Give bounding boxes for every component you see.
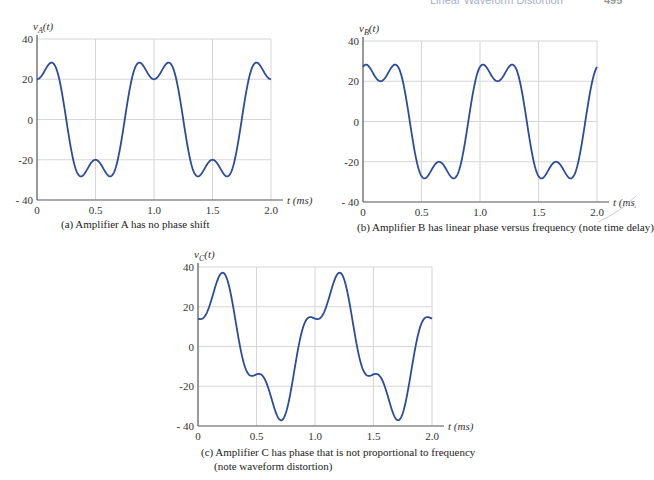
y-tick-label: 20 [183,301,195,313]
x-tick-label: 2.0 [590,206,604,218]
xlabel-a: t (ms) [287,194,313,207]
x-tick-label: 0.5 [415,206,429,218]
y-tick-label: - 40 [177,420,195,432]
ylabel-tail: (t) [43,20,54,33]
caption-c: (c) Amplifier C has phase that is not pr… [201,446,475,458]
y-tick-label: 0 [354,116,360,128]
panel-c: 00.51.01.52.040200-20- 40 vC(t) t (ms) [177,248,474,442]
x-tick-label: 1.5 [532,206,546,218]
x-tick-label: 2.0 [425,430,439,442]
ylabel-tail: (t) [369,22,380,35]
xlabel-b: t (ms) [613,196,636,209]
ticks-c: 00.51.01.52.040200-20- 40 [177,261,440,442]
panel-b: 00.51.01.52.040200-20- 40 vB(t) t (ms) [342,22,636,218]
x-tick-label: 2.0 [264,204,278,216]
x-tick-label: 1.0 [147,204,161,216]
y-tick-label: - 40 [16,194,34,206]
y-tick-label: - 40 [342,196,360,208]
y-tick-label: 20 [348,75,360,87]
y-tick-label: 40 [22,33,34,45]
x-tick-label: 0 [34,204,40,216]
x-tick-label: 0 [195,430,201,442]
grid-c [198,267,432,426]
x-tick-label: 1.0 [308,430,322,442]
ylabel-tail: (t) [204,248,215,261]
caption-a: (a) Amplifier A has no phase shift [61,218,209,230]
x-tick-label: 0.5 [89,204,103,216]
y-tick-label: -20 [18,154,33,166]
xlabel-c: t (ms) [448,420,474,433]
axes-a [37,35,283,200]
y-tick-label: -20 [344,156,359,168]
x-tick-label: 0.5 [250,430,264,442]
axes-c [198,263,444,426]
ticks-a: 00.51.01.52.040200-20- 40 [16,33,279,216]
y-tick-label: 40 [348,35,360,47]
grid-b [363,41,597,202]
caption-c-line2: (note waveform distortion) [214,460,333,472]
ylabel-a: vA(t) [33,20,54,35]
ylabel-b: vB(t) [359,22,380,37]
caption-b: (b) Amplifier B has linear phase versus … [357,221,654,233]
x-tick-label: 0 [360,206,366,218]
x-tick-label: 1.0 [473,206,487,218]
grid-a [37,39,271,200]
panel-a: 00.51.01.52.040200-20- 40 vA(t) t (ms) [16,20,313,216]
y-tick-label: -20 [179,380,194,392]
x-tick-label: 1.5 [367,430,381,442]
y-tick-label: 0 [28,114,34,126]
ylabel-c: vC(t) [194,248,215,263]
y-tick-label: 0 [189,341,195,353]
y-tick-label: 40 [183,261,195,273]
ticks-b: 00.51.01.52.040200-20- 40 [342,35,605,218]
x-tick-label: 1.5 [206,204,220,216]
y-tick-label: 20 [22,73,34,85]
